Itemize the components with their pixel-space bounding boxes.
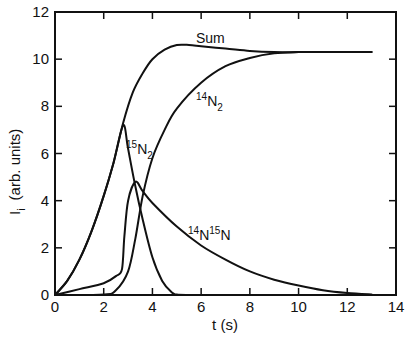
x-tick-label: 6 — [197, 298, 205, 315]
y-axis-title-sub: i — [15, 208, 27, 210]
y-axis-title: Ii(arb. units) — [6, 129, 27, 215]
y-tick-label: 2 — [41, 239, 49, 256]
axis-tick-labels: 02468101214024681012 — [32, 3, 404, 315]
chart-canvas: 02468101214024681012 t (s) Ii(arb. units… — [0, 0, 411, 339]
y-tick-label: 6 — [41, 145, 49, 162]
y-tick-label: 8 — [41, 97, 49, 114]
y-tick-label: 12 — [32, 3, 49, 20]
x-axis-title: t (s) — [212, 316, 238, 333]
x-tick-label: 14 — [388, 298, 405, 315]
label-14n2: 14N2 — [196, 91, 223, 113]
x-tick-label: 12 — [339, 298, 356, 315]
y-tick-label: 0 — [41, 286, 49, 303]
y-tick-label: 4 — [41, 192, 49, 209]
axis-ticks — [55, 12, 396, 295]
plot-frame — [55, 12, 396, 295]
x-tick-label: 10 — [290, 298, 307, 315]
curve-14n2 — [55, 52, 372, 295]
x-tick-label: 2 — [100, 298, 108, 315]
x-tick-label: 8 — [246, 298, 254, 315]
label-sum: Sum — [196, 30, 225, 46]
y-axis-title-rest: (arb. units) — [6, 129, 23, 201]
x-tick-label: 4 — [148, 298, 156, 315]
svg-text:Ii(arb. units): Ii(arb. units) — [6, 129, 27, 215]
curve-sum — [55, 45, 372, 295]
x-tick-label: 0 — [51, 298, 59, 315]
y-tick-label: 10 — [32, 50, 49, 67]
data-curves — [55, 45, 372, 295]
